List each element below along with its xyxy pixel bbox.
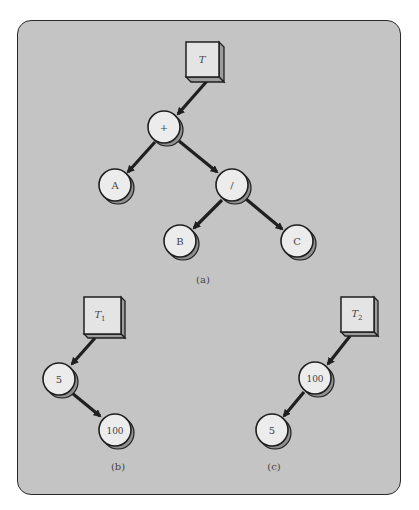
svg-text:A: A bbox=[110, 180, 119, 191]
figure: T + A / B bbox=[0, 0, 419, 510]
caption-b: (b) bbox=[111, 461, 125, 472]
svg-text:5: 5 bbox=[269, 425, 275, 436]
subfigure-a: T + A / B bbox=[99, 42, 316, 285]
node-A: A bbox=[99, 169, 134, 204]
node-100-b: 100 bbox=[99, 414, 134, 449]
svg-text:100: 100 bbox=[306, 374, 323, 384]
edge-T2-100 bbox=[328, 336, 350, 364]
node-100-c: 100 bbox=[299, 362, 334, 397]
edge-div-C bbox=[246, 199, 282, 229]
node-plus: + bbox=[148, 111, 183, 146]
pointer-box-T2: T2 bbox=[341, 297, 378, 336]
tree-diagrams: T + A / B bbox=[0, 0, 419, 510]
edge-plus-div bbox=[179, 141, 217, 172]
caption-c: (c) bbox=[267, 461, 281, 472]
subfigure-c: T2 100 5 (c) bbox=[256, 297, 378, 472]
svg-text:5: 5 bbox=[56, 374, 62, 385]
node-5-b: 5 bbox=[43, 363, 78, 398]
edge-T-plus bbox=[178, 81, 207, 114]
pointer-box-T: T bbox=[186, 42, 224, 82]
svg-text:100: 100 bbox=[106, 426, 123, 436]
subfigure-b: T1 5 100 (b) bbox=[43, 297, 134, 472]
edge-100-5 bbox=[284, 392, 304, 416]
caption-a: (a) bbox=[196, 274, 210, 285]
edge-div-B bbox=[194, 200, 222, 228]
edge-5-100 bbox=[72, 393, 100, 416]
node-divide: / bbox=[216, 169, 251, 204]
svg-text:B: B bbox=[176, 236, 183, 247]
node-5-c: 5 bbox=[256, 414, 291, 449]
svg-text:C: C bbox=[293, 236, 301, 247]
pointer-box-T1: T1 bbox=[84, 297, 125, 338]
node-B: B bbox=[164, 225, 199, 260]
edge-T1-5 bbox=[72, 338, 95, 364]
edge-plus-A bbox=[128, 142, 155, 172]
svg-text:+: + bbox=[160, 122, 168, 133]
node-C: C bbox=[281, 225, 316, 260]
